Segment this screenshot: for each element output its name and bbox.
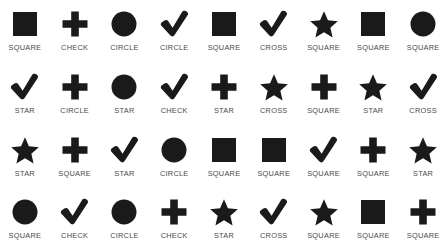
shape-cell-label: SQUARE (208, 170, 241, 177)
shape-cell: SQUARE (299, 0, 349, 63)
shape-cell: STAR (398, 126, 448, 189)
cross-icon (407, 196, 439, 228)
shape-cell: SQUARE (299, 126, 349, 189)
star-icon (308, 196, 340, 228)
square-icon (9, 8, 41, 40)
shape-cell: SQUARE (299, 63, 349, 126)
shape-cell: SQUARE (0, 0, 50, 63)
shape-cell-label: STAR (114, 170, 134, 177)
circle-icon (158, 134, 190, 166)
shape-cell: CROSS (249, 188, 299, 251)
check-icon (258, 196, 290, 228)
shape-cell: STAR (199, 188, 249, 251)
shape-cell: CROSS (249, 63, 299, 126)
shape-cell-label: STAR (214, 107, 234, 114)
shape-cell-label: CIRCLE (110, 44, 139, 51)
shape-cell-label: STAR (114, 107, 134, 114)
square-icon (208, 8, 240, 40)
cross-icon (158, 196, 190, 228)
square-icon (357, 196, 389, 228)
shape-cell-label: CHECK (161, 107, 188, 114)
check-icon (308, 134, 340, 166)
shape-cell: SQUARE (348, 126, 398, 189)
shape-cell-label: CROSS (409, 107, 437, 114)
shape-cell-label: SQUARE (357, 232, 390, 239)
star-icon (407, 134, 439, 166)
check-icon (158, 71, 190, 103)
shape-cell-label: SQUARE (257, 170, 290, 177)
shape-cell: CHECK (149, 63, 199, 126)
shape-cell: STAR (348, 63, 398, 126)
star-icon (308, 8, 340, 40)
shape-cell: SQUARE (398, 0, 448, 63)
shape-cell: SQUARE (348, 0, 398, 63)
shape-cell: CROSS (398, 63, 448, 126)
square-icon (208, 134, 240, 166)
circle-icon (9, 196, 41, 228)
shape-cell: STAR (100, 63, 150, 126)
star-icon (9, 134, 41, 166)
circle-icon (407, 8, 439, 40)
shape-cell: CIRCLE (149, 0, 199, 63)
shape-cell: CROSS (249, 0, 299, 63)
shape-cell-label: CHECK (161, 232, 188, 239)
shape-cell: SQUARE (0, 188, 50, 251)
shape-cell: STAR (0, 126, 50, 189)
shape-cell-label: SQUARE (307, 232, 340, 239)
shape-cell: SQUARE (249, 126, 299, 189)
shape-cell: CIRCLE (100, 0, 150, 63)
circle-icon (108, 8, 140, 40)
shape-cell-label: CHECK (61, 232, 88, 239)
cross-icon (208, 71, 240, 103)
shape-cell-label: CIRCLE (110, 232, 139, 239)
shape-cell-label: STAR (15, 170, 35, 177)
shape-cell: STAR (199, 63, 249, 126)
shape-cell-label: CROSS (260, 44, 288, 51)
shape-cell: CIRCLE (149, 126, 199, 189)
check-icon (59, 196, 91, 228)
shape-cell-label: CROSS (260, 107, 288, 114)
cross-icon (59, 71, 91, 103)
shape-cell: STAR (100, 126, 150, 189)
star-icon (357, 71, 389, 103)
cross-icon (59, 8, 91, 40)
shape-cell: CHECK (50, 188, 100, 251)
star-icon (208, 196, 240, 228)
cross-icon (308, 71, 340, 103)
shape-cell-label: STAR (363, 107, 383, 114)
shape-cell-label: SQUARE (357, 44, 390, 51)
shape-cell-label: SQUARE (208, 44, 241, 51)
shape-cell: SQUARE (50, 126, 100, 189)
square-icon (357, 8, 389, 40)
check-icon (407, 71, 439, 103)
shape-cell: STAR (0, 63, 50, 126)
shape-cell-label: STAR (214, 232, 234, 239)
shape-cell: CHECK (50, 0, 100, 63)
cross-icon (59, 134, 91, 166)
shape-cell-label: SQUARE (307, 44, 340, 51)
shape-cell-label: SQUARE (9, 44, 42, 51)
shape-cell-label: CIRCLE (160, 170, 189, 177)
circle-icon (108, 196, 140, 228)
shape-cell: SQUARE (348, 188, 398, 251)
check-icon (258, 8, 290, 40)
shape-cell-label: SQUARE (307, 170, 340, 177)
shape-cell: SQUARE (199, 126, 249, 189)
shape-cell-label: STAR (413, 170, 433, 177)
shape-label-grid: SQUARECHECKCIRCLECIRCLESQUARECROSSSQUARE… (0, 0, 448, 251)
check-icon (9, 71, 41, 103)
shape-cell: SQUARE (199, 0, 249, 63)
cross-icon (357, 134, 389, 166)
shape-cell-label: SQUARE (407, 44, 440, 51)
shape-cell-label: CIRCLE (60, 107, 89, 114)
shape-cell: CIRCLE (100, 188, 150, 251)
circle-icon (108, 71, 140, 103)
shape-cell-label: SQUARE (357, 170, 390, 177)
shape-cell-label: CHECK (61, 44, 88, 51)
shape-cell-label: SQUARE (407, 232, 440, 239)
shape-cell: CIRCLE (50, 63, 100, 126)
shape-cell-label: CIRCLE (160, 44, 189, 51)
check-icon (108, 134, 140, 166)
square-icon (258, 134, 290, 166)
shape-cell: CHECK (149, 188, 199, 251)
